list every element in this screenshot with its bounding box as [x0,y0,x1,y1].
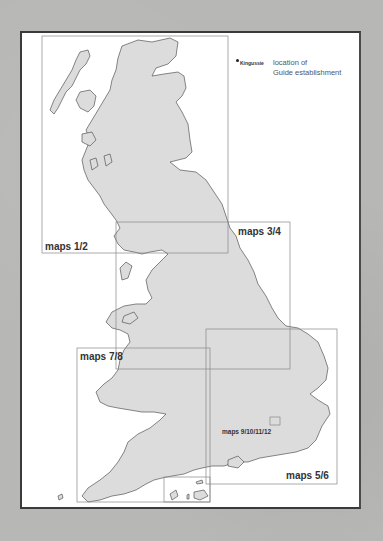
isle-of-skye [76,90,96,112]
great-britain-map [0,0,383,541]
legend-line-1: location of [273,58,307,67]
label-maps-7-8[interactable]: maps 7/8 [80,351,123,362]
guernsey [170,490,178,500]
label-maps-9-12[interactable]: maps 9/10/11/12 [222,428,271,435]
legend-line-2: Guide establishment [273,68,341,77]
isle-of-man [120,262,132,280]
scilly-isles [58,494,63,500]
alderney [196,480,203,484]
legend: Kingussie location of Guide establishmen… [236,58,270,68]
establishment-dot-icon [236,59,239,62]
legend-sample-label: Kingussie [240,60,264,66]
label-maps-1-2[interactable]: maps 1/2 [45,241,88,252]
legend-description: location of Guide establishment [273,58,341,78]
jersey [194,490,208,500]
label-maps-3-4[interactable]: maps 3/4 [238,226,281,237]
label-maps-5-6[interactable]: maps 5/6 [286,470,329,481]
sark [187,494,189,499]
